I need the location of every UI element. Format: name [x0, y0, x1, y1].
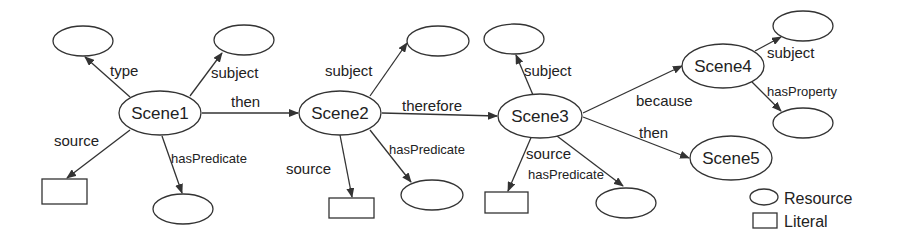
node-scene1: Scene1: [119, 91, 201, 135]
label-scene1-subject: subject: [211, 64, 259, 81]
edge-scene3-then: [583, 117, 689, 158]
literal-scene2-source: [329, 198, 374, 218]
edge-scene3-source: [508, 133, 533, 191]
label-scene4-subject: subject: [767, 44, 815, 61]
label-scene3-because: because: [636, 92, 693, 109]
legend-literal-label: Literal: [784, 213, 828, 230]
resource-scene4-subject: [773, 11, 833, 41]
label-scene1-source: source: [54, 132, 99, 149]
literal-scene1-source: [42, 179, 87, 204]
node-scene4-label: Scene4: [694, 57, 752, 76]
node-scene3-label: Scene3: [511, 107, 569, 126]
label-scene3-source: source: [526, 145, 571, 162]
legend-resource-icon: [750, 189, 778, 205]
resource-scene4-hasProperty: [773, 108, 833, 138]
label-scene3-subject: subject: [524, 62, 572, 79]
resource-scene3-hasPredicate: [596, 188, 656, 218]
label-scene2-therefore: therefore: [402, 97, 462, 114]
label-scene3-hasPredicate: hasPredicate: [528, 167, 604, 182]
label-scene3-then: then: [639, 124, 668, 141]
label-scene2-source: source: [286, 160, 331, 177]
resource-scene2-hasPredicate: [401, 180, 463, 210]
legend-resource-label: Resource: [784, 190, 853, 207]
label-scene1-hasPredicate: hasPredicate: [171, 151, 247, 166]
literal-scene3-source: [485, 192, 528, 213]
node-scene5: Scene5: [690, 136, 772, 180]
node-scene5-label: Scene5: [702, 149, 760, 168]
legend-literal-icon: [753, 213, 777, 228]
label-scene2-hasPredicate: hasPredicate: [389, 142, 465, 157]
resource-scene1-subject: [214, 25, 274, 55]
node-scene4: Scene4: [682, 44, 764, 88]
resource-scene1-hasPredicate: [153, 194, 213, 224]
label-scene2-subject: subject: [325, 62, 373, 79]
edge-scene2-subject: [370, 43, 407, 96]
label-scene4-hasProperty: hasProperty: [767, 84, 838, 99]
resource-scene1-type: [53, 26, 113, 56]
node-scene3: Scene3: [498, 94, 582, 138]
node-scene1-label: Scene1: [131, 104, 189, 123]
legend: Resource Literal: [750, 189, 853, 230]
node-scene2-label: Scene2: [311, 104, 369, 123]
edge-scene2-source: [340, 135, 352, 197]
node-scene2: Scene2: [299, 91, 381, 135]
rdf-scene-graph: type subject then source hasPredicate su…: [0, 0, 899, 246]
label-scene1-then: then: [231, 93, 260, 110]
label-scene1-type: type: [110, 62, 138, 79]
resource-scene3-subject: [484, 24, 544, 54]
resource-scene2-subject: [407, 26, 469, 56]
